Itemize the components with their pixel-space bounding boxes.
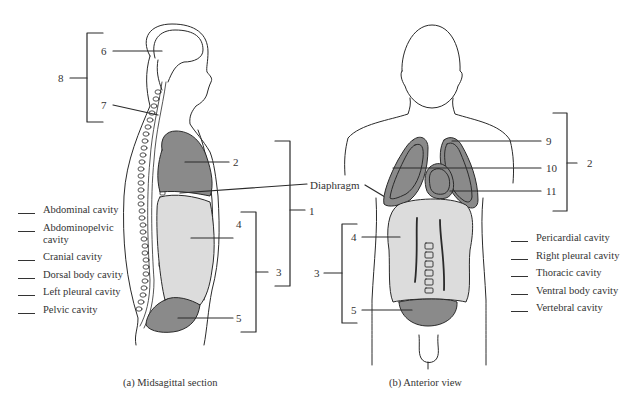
callout-4-a: 4	[236, 218, 242, 230]
diaphragm-label: Diaphragm	[309, 179, 360, 191]
answer-item: Vertebral cavity	[511, 302, 639, 314]
callout-2-b: 2	[587, 157, 593, 169]
answer-item: Abdominopelvic cavity	[18, 222, 138, 246]
abdominal-cavity-shape-b	[388, 199, 473, 302]
answer-blank[interactable]	[511, 241, 528, 242]
callout-7: 7	[101, 99, 107, 111]
callout-5-b: 5	[351, 304, 357, 316]
caption-anterior: (b) Anterior view	[389, 377, 462, 388]
callout-2-a: 2	[233, 156, 239, 168]
answer-item: Pelvic cavity	[18, 304, 138, 316]
answer-blank[interactable]	[511, 311, 528, 312]
caption-midsagittal: (a) Midsagittal section	[123, 377, 217, 388]
abdominal-cavity-shape	[157, 195, 214, 305]
answer-blank[interactable]	[18, 260, 35, 261]
answer-item: Ventral body cavity	[511, 285, 639, 297]
answer-item: Pericardial cavity	[511, 232, 639, 244]
callout-4-b: 4	[351, 231, 357, 243]
callout-1: 1	[309, 205, 315, 217]
answer-item: Abdominal cavity	[18, 204, 138, 216]
answer-blank[interactable]	[18, 278, 35, 279]
callout-5-a: 5	[236, 312, 242, 324]
answer-blank[interactable]	[18, 231, 35, 232]
answer-list-left: Abdominal cavity Abdominopelvic cavity C…	[18, 204, 138, 321]
answer-blank[interactable]	[511, 294, 528, 295]
answer-list-right: Pericardial cavity Right pleural cavity …	[511, 232, 639, 320]
callout-8: 8	[58, 72, 64, 84]
answer-item: Left pleural cavity	[18, 286, 138, 298]
thoracic-cavity-shape	[158, 131, 212, 196]
answer-blank[interactable]	[18, 313, 35, 314]
answer-item: Thoracic cavity	[511, 267, 639, 279]
callout-3-b: 3	[314, 267, 320, 279]
answer-blank[interactable]	[18, 213, 35, 214]
answer-blank[interactable]	[511, 276, 528, 277]
callout-10: 10	[546, 162, 557, 174]
callout-6: 6	[101, 45, 107, 57]
pelvic-cavity-shape-b	[399, 299, 457, 326]
callout-3-a: 3	[276, 266, 282, 278]
answer-item: Right pleural cavity	[511, 250, 639, 262]
answer-item: Cranial cavity	[18, 251, 138, 263]
answer-blank[interactable]	[18, 295, 35, 296]
thoracic-organs	[384, 137, 478, 208]
answer-item: Dorsal body cavity	[18, 269, 138, 281]
answer-blank[interactable]	[511, 259, 528, 260]
callout-11: 11	[546, 185, 557, 197]
callout-9: 9	[546, 135, 552, 147]
pelvic-cavity-shape	[146, 297, 200, 332]
